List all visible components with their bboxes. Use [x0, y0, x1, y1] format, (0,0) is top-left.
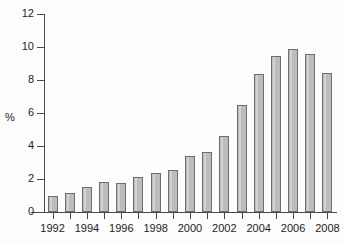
- x-tick-mark: [293, 213, 294, 219]
- bar: [271, 56, 281, 212]
- y-tick-mark: [37, 80, 44, 81]
- x-tick-mark: [276, 213, 277, 219]
- y-tick-label-wrap: 0: [0, 206, 34, 217]
- x-tick-mark: [224, 213, 225, 219]
- x-tick-mark: [242, 213, 243, 219]
- y-tick-label: 8: [4, 74, 34, 85]
- bar: [116, 183, 126, 212]
- bar: [48, 196, 58, 212]
- y-tick-mark: [37, 47, 44, 48]
- x-tick-mark: [156, 213, 157, 219]
- x-tick-mark: [327, 213, 328, 219]
- bar: [254, 74, 264, 212]
- x-tick-mark: [104, 213, 105, 219]
- y-tick-label: 2: [4, 173, 34, 184]
- y-axis-line: [44, 14, 45, 213]
- y-tick-label: 10: [4, 41, 34, 52]
- bar: [185, 156, 195, 212]
- bar: [168, 170, 178, 212]
- x-tick-mark: [53, 213, 54, 219]
- y-tick-mark: [37, 146, 44, 147]
- bar: [99, 182, 109, 212]
- x-tick-mark: [87, 213, 88, 219]
- y-tick-mark: [37, 14, 44, 15]
- x-tick-mark: [259, 213, 260, 219]
- x-tick-mark: [207, 213, 208, 219]
- y-tick-mark: [37, 113, 44, 114]
- bar: [237, 105, 247, 212]
- x-axis-line: [31, 212, 337, 213]
- bar: [202, 152, 212, 212]
- x-tick-mark: [190, 213, 191, 219]
- bar: [288, 49, 298, 212]
- y-tick-mark: [37, 212, 44, 213]
- x-tick-mark: [310, 213, 311, 219]
- x-tick-mark: [70, 213, 71, 219]
- bar: [82, 187, 92, 212]
- x-tick-mark: [121, 213, 122, 219]
- y-tick-label-wrap: 12: [0, 8, 34, 19]
- bar: [219, 136, 229, 212]
- x-tick-mark: [138, 213, 139, 219]
- x-tick-label: 2008: [307, 222, 343, 234]
- y-tick-label-wrap: 10: [0, 41, 34, 52]
- y-tick-label: 6: [4, 107, 34, 118]
- y-tick-label-wrap: 8: [0, 74, 34, 85]
- bar: [65, 193, 75, 212]
- y-tick-label-wrap: 2: [0, 173, 34, 184]
- bar: [151, 173, 161, 212]
- y-tick-label: 0: [4, 206, 34, 217]
- y-tick-label-wrap: 6: [0, 107, 34, 118]
- y-tick-mark: [37, 179, 44, 180]
- y-tick-label: 4: [4, 140, 34, 151]
- bar: [322, 73, 332, 212]
- y-tick-label-wrap: 4: [0, 140, 34, 151]
- y-tick-label: 12: [4, 8, 34, 19]
- bar-chart: % 024681012 1992199419961998200020022004…: [0, 0, 343, 244]
- x-tick-mark: [173, 213, 174, 219]
- bar: [305, 54, 315, 212]
- bar: [133, 177, 143, 212]
